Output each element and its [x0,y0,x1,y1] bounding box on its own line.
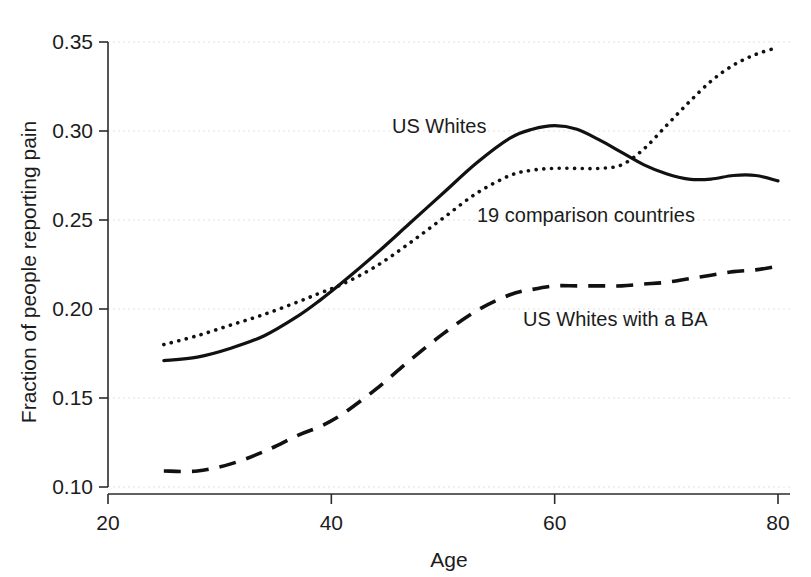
chart-background [0,0,811,577]
x-tick-label: 40 [320,511,343,534]
y-axis-title: Fraction of people reporting pain [17,121,40,423]
y-tick-label: 0.25 [52,208,93,231]
x-tick-label: 60 [543,511,566,534]
series-annotation-us-whites-with-a-ba: US Whites with a BA [523,308,708,330]
x-tick-label: 80 [766,511,789,534]
x-tick-label: 20 [96,511,119,534]
y-tick-label: 0.20 [52,297,93,320]
y-tick-label: 0.35 [52,30,93,53]
chart-page: 0.100.150.200.250.300.35 20406080 US Whi… [0,0,811,577]
y-tick-label: 0.10 [52,475,93,498]
x-axis-title: Age [430,548,467,571]
y-tick-label: 0.15 [52,386,93,409]
series-annotation-us-whites: US Whites [392,115,486,137]
y-tick-label: 0.30 [52,119,93,142]
series-annotation-19-comparison-countries: 19 comparison countries [477,204,695,226]
pain-by-age-line-chart: 0.100.150.200.250.300.35 20406080 US Whi… [0,0,811,577]
